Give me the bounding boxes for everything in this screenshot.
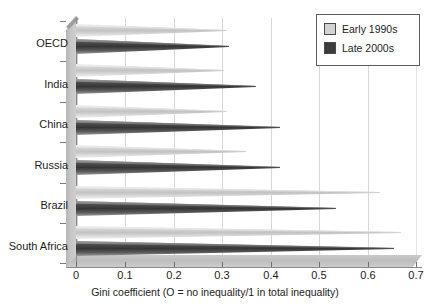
bar-oecd-late-2000s: [76, 39, 229, 54]
x-tick-5: [319, 262, 320, 267]
bar-russia-early-1990s: [76, 145, 246, 158]
legend-label-late-2000s: Late 2000s: [342, 42, 394, 54]
x-axis-line: [66, 267, 422, 268]
legend-swatch-early-1990s: [324, 23, 336, 35]
x-tick-label-6: 0.6: [360, 269, 375, 281]
legend-swatch-late-2000s: [324, 42, 336, 54]
y-tick-3: [60, 142, 66, 143]
x-tick-label-5: 0.5: [311, 269, 326, 281]
x-tick-label-0: 0: [73, 269, 79, 281]
bar-china-late-2000s: [76, 120, 280, 135]
category-label-brazil: Brazil: [40, 199, 68, 211]
legend-item-late-2000s: Late 2000s: [324, 40, 412, 56]
x-tick-label-7: 0.7: [408, 269, 423, 281]
bar-south-africa-early-1990s: [76, 226, 401, 239]
y-tick-1: [60, 61, 66, 62]
legend-label-early-1990s: Early 1990s: [342, 23, 397, 35]
category-label-oecd: OECD: [36, 37, 68, 49]
x-tick-7: [416, 262, 417, 267]
category-label-south-africa: South Africa: [9, 240, 68, 252]
y-tick-4: [60, 183, 66, 184]
bar-brazil-early-1990s: [76, 186, 380, 199]
x-tick-3: [222, 262, 223, 267]
x-tick-label-4: 0.4: [263, 269, 278, 281]
bar-russia-late-2000s: [76, 160, 280, 175]
x-tick-label-2: 0.2: [166, 269, 181, 281]
bar-brazil-late-2000s: [76, 201, 336, 216]
chart-legend: Early 1990s Late 2000s: [316, 14, 420, 66]
plot-area: OECD India China Russia Brazil South Afr…: [0, 0, 430, 308]
category-label-india: India: [44, 78, 68, 90]
x-tick-2: [174, 262, 175, 267]
y-tick-0: [60, 21, 66, 22]
x-tick-1: [125, 262, 126, 267]
x-tick-label-1: 0.1: [117, 269, 132, 281]
gini-coefficient-chart: OECD India China Russia Brazil South Afr…: [0, 0, 430, 308]
category-label-china: China: [39, 118, 68, 130]
bar-south-africa-late-2000s: [76, 241, 394, 256]
x-tick-label-3: 0.3: [214, 269, 229, 281]
x-axis-title: Gini coefficient (O = no inequality/1 in…: [0, 286, 430, 298]
bar-india-early-1990s: [76, 64, 224, 77]
category-label-russia: Russia: [34, 159, 68, 171]
bar-india-late-2000s: [76, 79, 256, 94]
bar-oecd-early-1990s: [76, 24, 227, 37]
bar-china-early-1990s: [76, 105, 227, 118]
x-tick-6: [368, 262, 369, 267]
x-tick-0: [76, 262, 77, 267]
legend-item-early-1990s: Early 1990s: [324, 21, 412, 37]
x-tick-4: [271, 262, 272, 267]
y-tick-5: [60, 223, 66, 224]
y-tick-2: [60, 102, 66, 103]
y-tick-6: [60, 263, 66, 264]
